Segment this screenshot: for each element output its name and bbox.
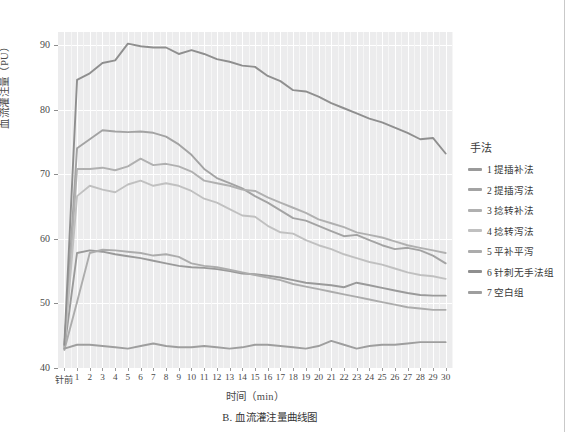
legend-color-swatch: [468, 291, 482, 294]
x-axis-label: 时间（min）: [58, 388, 452, 403]
x-tick-label: 3: [100, 372, 105, 382]
x-tick-mark: [357, 368, 358, 371]
y-tick-mark: [54, 110, 58, 111]
legend-color-swatch: [468, 209, 482, 212]
x-tick-mark: [191, 368, 192, 371]
x-tick-mark: [306, 368, 307, 371]
legend-item-label: 5 平补平泻: [487, 244, 534, 258]
legend-item[interactable]: 4 捻转泻法: [468, 224, 560, 238]
series-line: [64, 181, 445, 349]
x-tick-label: 2: [87, 372, 92, 382]
legend: 手法 1 提插补法2 提插泻法3 捻转补法4 捻转泻法5 平补平泻6 针刺无手法…: [468, 139, 560, 306]
x-tick-mark: [217, 368, 218, 371]
x-tick-mark: [331, 368, 332, 371]
x-tick-label: 18: [289, 372, 298, 382]
legend-item[interactable]: 7 空白组: [468, 285, 560, 299]
x-tick-label: 22: [339, 372, 348, 382]
grid-line-vertical-minor: [452, 32, 453, 368]
x-tick-mark: [90, 368, 91, 371]
x-tick-mark: [166, 368, 167, 371]
x-tick-label: 4: [113, 372, 118, 382]
x-tick-mark: [268, 368, 269, 371]
y-tick-label: 70: [22, 168, 50, 179]
y-tick-label: 90: [22, 39, 50, 50]
x-tick-label: 12: [212, 372, 221, 382]
x-tick-label: 29: [428, 372, 437, 382]
x-tick-mark: [446, 368, 447, 371]
x-tick-label: 7: [151, 372, 156, 382]
x-tick-label: 23: [352, 372, 361, 382]
legend-item[interactable]: 6 针刺无手法组: [468, 265, 560, 279]
x-tick-mark: [102, 368, 103, 371]
x-tick-mark: [115, 368, 116, 371]
x-tick-mark: [128, 368, 129, 371]
legend-item-label: 4 捻转泻法: [487, 224, 534, 238]
x-tick-label: 5: [126, 372, 131, 382]
x-tick-label: 24: [365, 372, 374, 382]
legend-item[interactable]: 2 提插泻法: [468, 183, 560, 197]
x-tick-mark: [344, 368, 345, 371]
x-tick-label: 8: [164, 372, 169, 382]
x-tick-label: 30: [441, 372, 450, 382]
x-tick-label: 6: [138, 372, 143, 382]
x-tick-label: 1: [75, 372, 80, 382]
legend-color-swatch: [468, 270, 482, 273]
x-tick-label: 11: [200, 372, 209, 382]
x-tick-mark: [369, 368, 370, 371]
y-tick-label: 50: [22, 297, 50, 308]
x-tick-label: 17: [276, 372, 285, 382]
x-tick-mark: [204, 368, 205, 371]
x-tick-label: 13: [225, 372, 234, 382]
x-tick-label: 28: [416, 372, 425, 382]
x-tick-label: 14: [238, 372, 247, 382]
series-line: [64, 159, 445, 346]
legend-item[interactable]: 1 提插补法: [468, 162, 560, 176]
x-tick-mark: [280, 368, 281, 371]
x-tick-mark: [382, 368, 383, 371]
x-tick-mark: [153, 368, 154, 371]
blood-perfusion-line-chart: 405060708090 血流灌注量（PU） 针前123456789101112…: [0, 0, 585, 432]
x-tick-label: 20: [314, 372, 323, 382]
x-tick-mark: [77, 368, 78, 371]
y-tick-mark: [54, 45, 58, 46]
legend-title: 手法: [470, 139, 560, 155]
y-axis-label: 血流灌注量（PU）: [0, 20, 11, 150]
x-tick-label: 9: [176, 372, 181, 382]
x-tick-mark: [408, 368, 409, 371]
legend-item-label: 7 空白组: [487, 285, 524, 299]
x-tick-mark: [433, 368, 434, 371]
legend-item-label: 6 针刺无手法组: [487, 265, 554, 279]
x-tick-mark: [242, 368, 243, 371]
x-tick-label: 15: [250, 372, 259, 382]
x-tick-label: 10: [187, 372, 196, 382]
series-lines: [58, 32, 452, 368]
x-tick-label: 27: [403, 372, 412, 382]
x-tick-label: 26: [390, 372, 399, 382]
y-tick-mark: [54, 239, 58, 240]
y-tick-label: 80: [22, 104, 50, 115]
legend-item[interactable]: 5 平补平泻: [468, 244, 560, 258]
plot-area: [58, 32, 452, 368]
series-line: [64, 44, 445, 345]
x-tick-label: 针前: [55, 372, 73, 386]
y-tick-mark: [54, 174, 58, 175]
x-tick-mark: [179, 368, 180, 371]
y-tick-label: 60: [22, 233, 50, 244]
series-line: [64, 250, 445, 348]
x-tick-mark: [293, 368, 294, 371]
figure-page: 405060708090 血流灌注量（PU） 针前123456789101112…: [0, 0, 585, 432]
series-line: [64, 250, 445, 350]
x-tick-label: 25: [378, 372, 387, 382]
x-axis: 针前12345678910111213141516171819202122232…: [58, 368, 452, 380]
series-line: [64, 341, 445, 349]
x-tick-label: 21: [327, 372, 336, 382]
legend-item[interactable]: 3 捻转补法: [468, 203, 560, 217]
legend-color-swatch: [468, 250, 482, 253]
legend-color-swatch: [468, 168, 482, 171]
legend-items: 1 提插补法2 提插泻法3 捻转补法4 捻转泻法5 平补平泻6 针刺无手法组7 …: [468, 162, 560, 299]
y-tick-mark: [54, 303, 58, 304]
x-tick-mark: [255, 368, 256, 371]
x-tick-mark: [230, 368, 231, 371]
figure-caption: B. 血流灌注量曲线图: [0, 409, 540, 424]
legend-color-swatch: [468, 188, 482, 191]
